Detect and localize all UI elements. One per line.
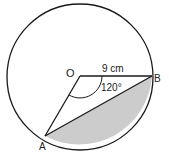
- label-radius: 9 cm: [102, 63, 124, 74]
- shaded-segment: [45, 76, 152, 144]
- label-o: O: [66, 67, 75, 79]
- label-angle: 120°: [101, 82, 122, 93]
- circle-diagram: O B A 9 cm 120°: [0, 0, 169, 159]
- label-b: B: [154, 73, 161, 84]
- label-a: A: [39, 141, 46, 152]
